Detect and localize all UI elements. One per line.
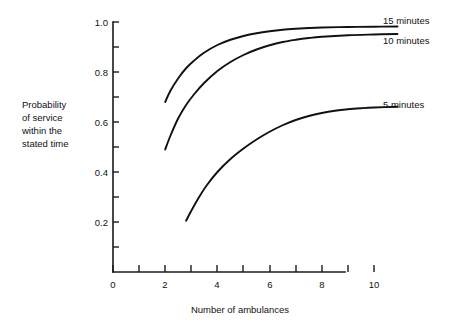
x-tick-label-6: 6 (267, 279, 272, 290)
y-axis-title-line-1: Probability (22, 99, 67, 110)
y-tick-label-0.8: 0.8 (95, 67, 108, 78)
x-axis-title: Number of ambulances (191, 304, 289, 315)
y-tick-label-0.6: 0.6 (95, 117, 108, 128)
y-tick-label-0.2: 0.2 (95, 217, 108, 228)
x-tick-label-8: 8 (319, 279, 324, 290)
x-tick-label-0: 0 (110, 279, 115, 290)
series-label-15-minutes: 15 minutes (383, 15, 430, 26)
y-axis-title-line-4: stated time (22, 138, 68, 149)
x-tick-label-2: 2 (162, 279, 167, 290)
line-chart: 1.0 0.8 0.6 0.4 0.2 0 2 4 6 8 10 15 minu… (0, 0, 450, 330)
series-label-10-minutes: 10 minutes (383, 35, 430, 46)
chart-figure: 1.0 0.8 0.6 0.4 0.2 0 2 4 6 8 10 15 minu… (0, 0, 450, 330)
series-label-5-minutes: 5 minutes (383, 99, 424, 110)
y-tick-label-0.4: 0.4 (95, 167, 108, 178)
x-tick-label-4: 4 (214, 279, 219, 290)
y-axis-title-line-2: of service (22, 112, 63, 123)
y-axis-title-line-3: within the (21, 125, 62, 136)
y-tick-label-1.0: 1.0 (95, 17, 108, 28)
x-tick-label-10: 10 (369, 279, 380, 290)
